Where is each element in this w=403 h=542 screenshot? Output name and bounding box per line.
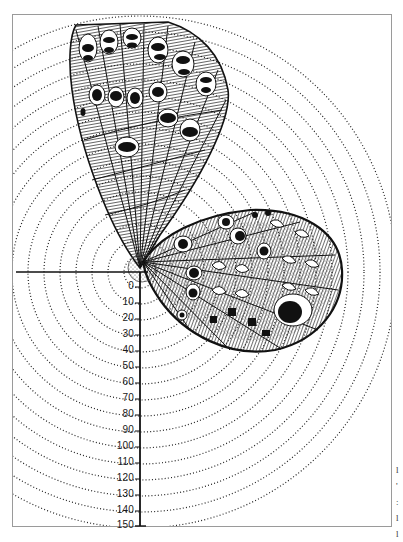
tick-label-40: 40 (104, 345, 134, 355)
tick-label-60: 60 (104, 377, 134, 387)
tick-label-70: 70 (104, 393, 134, 403)
tick-label-20: 20 (104, 313, 134, 323)
tick-label-120: 120 (104, 473, 134, 483)
tick-label-80: 80 (104, 409, 134, 419)
margin-fragment: : (396, 494, 403, 510)
margin-fragment: l (396, 526, 403, 542)
margin-text-fragments: l ' : l l (396, 462, 403, 542)
tick-label-130: 130 (104, 489, 134, 499)
tick-label-140: 140 (104, 505, 134, 515)
scale-axis (135, 272, 146, 526)
margin-fragment: l (396, 510, 403, 526)
margin-fragment: l (396, 462, 403, 478)
tick-label-30: 30 (104, 329, 134, 339)
tick-label-50: 50 (104, 361, 134, 371)
tick-label-110: 110 (104, 457, 134, 467)
tick-label-10: 10 (104, 297, 134, 307)
tick-label-150: 150 (104, 520, 134, 530)
tick-label-100: 100 (104, 441, 134, 451)
tick-label-90: 90 (104, 425, 134, 435)
margin-fragment: ' (396, 478, 403, 494)
wing-diagram (0, 0, 403, 542)
hindwing (143, 210, 342, 352)
tick-label-0: 0 (104, 281, 134, 291)
wing-base (128, 254, 156, 282)
